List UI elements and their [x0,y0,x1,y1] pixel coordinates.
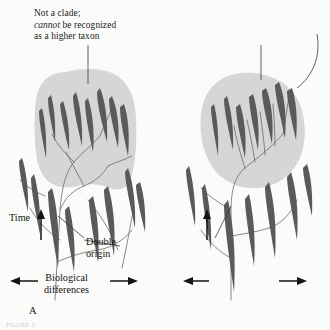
biodiff-line-2: differences [44,284,89,296]
double-origin-line-1: Double [86,236,116,248]
panel-b: A clade; can be recognized as a higher t… [165,0,330,330]
paraphyletic-group-blob [35,69,137,189]
biological-differences-arrow [183,277,307,285]
callout-line-2-rest: be recognized [60,20,116,30]
figure-source-caption: FIGURE 2 [6,322,326,330]
biodiff-line-1: Biological [44,272,89,284]
panel-a: Not a clade; cannot be recognized as a h… [0,0,165,330]
phylogeny-figure: Not a clade; cannot be recognized as a h… [0,0,330,330]
callout-line-1: Not a clade; [34,8,116,20]
callout-line-2: cannot be recognized [34,20,116,32]
double-origin-label: Double origin [86,236,116,260]
callout-line-3: as a higher taxon [34,31,116,43]
callout-curved-leader-line [297,34,318,88]
biological-differences-label: Biological differences [44,272,89,296]
panel-a-letter: A [29,305,37,316]
panel-b-artwork [165,0,330,330]
lineage-branch-path [122,206,134,268]
time-axis-label: Time [9,212,30,224]
panel-a-callout-text: Not a clade; cannot be recognized as a h… [34,8,116,43]
callout-emphasis: cannot [34,20,60,30]
double-origin-line-2: origin [86,248,116,260]
